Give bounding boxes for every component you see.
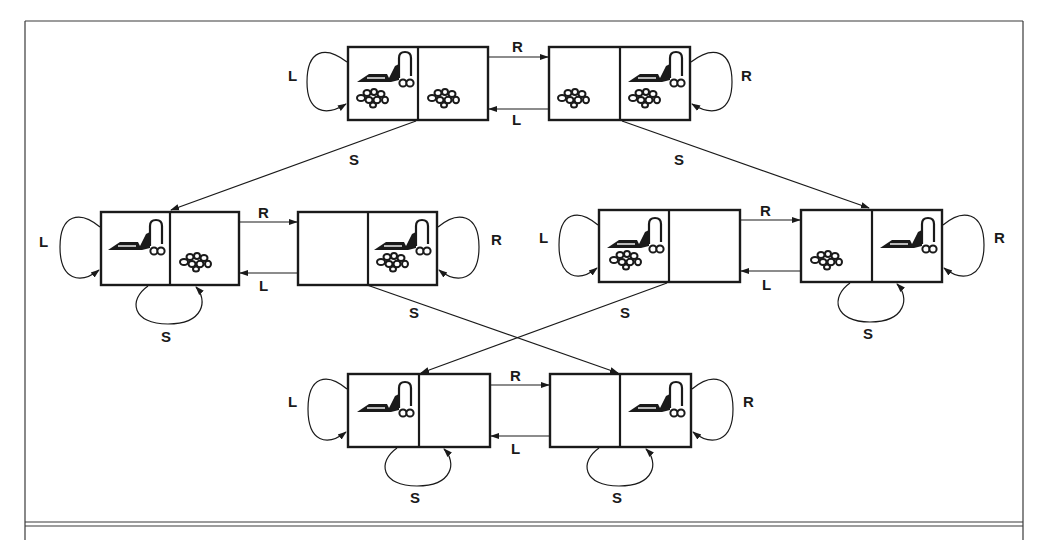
- edge-label-r: R: [510, 367, 521, 384]
- loop-label-s: S: [410, 489, 420, 506]
- loop-label-l: L: [539, 229, 548, 246]
- state-7: [348, 374, 490, 447]
- state-4: [298, 212, 437, 285]
- loop-label-r: R: [743, 393, 754, 410]
- state-6: [801, 210, 942, 282]
- loop-label-r: R: [741, 67, 752, 84]
- loop-label-l: L: [288, 393, 297, 410]
- state-8: [550, 374, 691, 447]
- loop-label-s: S: [161, 328, 171, 345]
- edges-top: R L L R S S: [171, 38, 869, 210]
- loop-label-r: R: [994, 229, 1005, 246]
- edge-label-l: L: [762, 276, 771, 293]
- edge-label-s: S: [674, 151, 684, 168]
- loop-label-s: S: [612, 489, 622, 506]
- edge-label-r: R: [760, 202, 771, 219]
- edge-label-l: L: [259, 277, 268, 294]
- state-3: [101, 212, 239, 285]
- state-5: [599, 210, 740, 282]
- edge-label-l: L: [511, 440, 520, 457]
- loop-label-l: L: [39, 233, 48, 250]
- edge-label-s: S: [349, 151, 359, 168]
- loop-label-r: R: [491, 231, 502, 248]
- edge-label-r: R: [512, 38, 523, 55]
- loop-label-l: L: [288, 67, 297, 84]
- loop-label-s: S: [863, 325, 873, 342]
- state-2: [549, 47, 690, 120]
- edge-label-l: L: [512, 111, 521, 128]
- edge-label-s: S: [620, 304, 630, 321]
- state-1: [348, 47, 488, 120]
- edge-label-r: R: [258, 204, 269, 221]
- vacuum-world-state-diagram: R L L R S S R L L R S S: [0, 0, 1044, 540]
- edge-label-s: S: [409, 304, 419, 321]
